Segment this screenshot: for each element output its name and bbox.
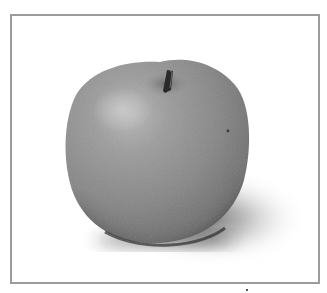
apple-photo <box>0 0 327 293</box>
scan-artifact <box>246 289 248 291</box>
skin-speck <box>227 130 230 133</box>
